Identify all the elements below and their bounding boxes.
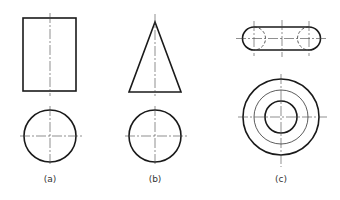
view-label-b: (b) [149, 174, 162, 184]
cylinder-front-view [23, 18, 76, 91]
view-a: (a) [20, 13, 82, 184]
view-label-c: (c) [275, 174, 287, 184]
orthographic-projection-diagram: (a) (b) (c) [0, 0, 340, 200]
view-c: (c) [236, 20, 327, 184]
view-b: (b) [125, 14, 187, 184]
view-label-a: (a) [44, 174, 57, 184]
